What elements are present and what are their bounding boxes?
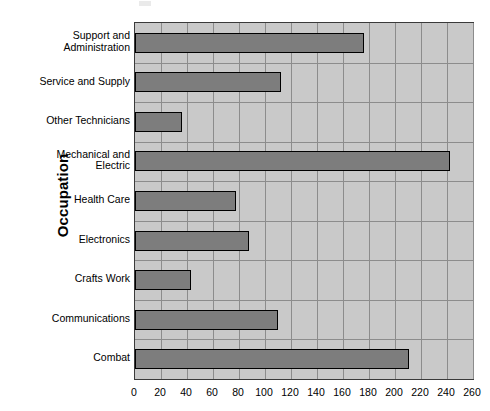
bar: [135, 191, 236, 211]
y-axis-tick-label: Service and Supply: [18, 76, 130, 88]
x-axis-tick-label: 180: [359, 386, 377, 398]
gridline-vertical: [447, 23, 448, 379]
y-axis-tick-label: Combat: [18, 352, 130, 364]
gridline-horizontal: [135, 102, 473, 103]
gridline-horizontal: [135, 260, 473, 261]
bar: [135, 33, 364, 53]
gridline-horizontal: [135, 63, 473, 64]
x-axis-tick-label: 60: [206, 386, 218, 398]
x-axis-tick-label: 160: [333, 386, 351, 398]
x-axis-tick-label: 140: [307, 386, 325, 398]
y-axis-tick-label-line: Service and Supply: [18, 76, 130, 88]
y-axis-tick-label: Other Technicians: [18, 115, 130, 127]
bar: [135, 349, 409, 369]
y-axis-tick-label: Mechanical andElectric: [18, 149, 130, 172]
bar: [135, 72, 281, 92]
y-axis-tick-label: Crafts Work: [18, 273, 130, 285]
plot-area: [134, 22, 474, 380]
gridline-horizontal: [135, 300, 473, 301]
y-axis-tick-label: Health Care: [18, 194, 130, 206]
bar: [135, 270, 191, 290]
gridline-vertical: [317, 23, 318, 379]
x-axis-tick-label: 100: [255, 386, 273, 398]
y-axis-tick-label-line: Communications: [18, 313, 130, 325]
gridline-vertical: [473, 23, 474, 379]
y-axis-tick-label: Communications: [18, 313, 130, 325]
gridline-vertical: [369, 23, 370, 379]
x-axis-tick-label: 200: [385, 386, 403, 398]
y-axis-tick-label-line: Administration: [18, 42, 130, 54]
bar: [135, 231, 249, 251]
x-axis-tick-label: 240: [437, 386, 455, 398]
gridline-horizontal: [135, 339, 473, 340]
y-axis-tick-label-line: Electronics: [18, 234, 130, 246]
y-axis-tick-label-line: Crafts Work: [18, 273, 130, 285]
scan-artifact: [139, 1, 151, 6]
y-axis-tick-label-line: Combat: [18, 352, 130, 364]
y-axis-tick-label: Support andAdministration: [18, 30, 130, 53]
gridline-vertical: [343, 23, 344, 379]
x-axis-tick-labels: 020406080100120140160180200220240260: [134, 386, 472, 402]
y-axis-tick-labels: Support andAdministrationService and Sup…: [18, 22, 130, 378]
bar-chart: Occupation Support andAdministrationServ…: [0, 0, 490, 411]
gridline-vertical: [291, 23, 292, 379]
x-axis-tick-label: 0: [131, 386, 137, 398]
gridline-vertical: [395, 23, 396, 379]
x-axis-tick-label: 220: [411, 386, 429, 398]
gridline-horizontal: [135, 221, 473, 222]
y-axis-tick-label-line: Other Technicians: [18, 115, 130, 127]
x-axis-tick-label: 260: [463, 386, 481, 398]
x-axis-tick-label: 40: [180, 386, 192, 398]
x-axis-tick-label: 20: [154, 386, 166, 398]
y-axis-tick-label: Electronics: [18, 234, 130, 246]
y-axis-tick-label-line: Health Care: [18, 194, 130, 206]
bar: [135, 112, 182, 132]
x-axis-tick-label: 80: [232, 386, 244, 398]
gridline-horizontal: [135, 142, 473, 143]
y-axis-tick-label-line: Electric: [18, 160, 130, 172]
gridline-vertical: [421, 23, 422, 379]
gridline-horizontal: [135, 181, 473, 182]
bar: [135, 151, 450, 171]
bar: [135, 310, 278, 330]
x-axis-tick-label: 120: [281, 386, 299, 398]
